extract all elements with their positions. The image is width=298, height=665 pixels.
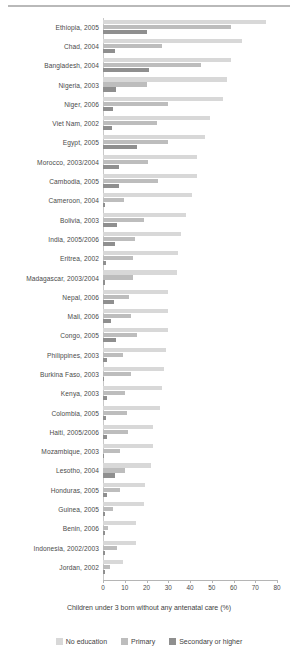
bar-primary <box>103 160 148 164</box>
bar-row: Haiti, 2005/2006 <box>103 423 277 442</box>
bar-row: Egypt, 2005 <box>103 134 277 153</box>
category-label: Lesotho, 2004 <box>56 468 99 475</box>
bar-secondary-or-higher <box>103 493 107 497</box>
category-label: Indonesia, 2002/2003 <box>34 545 99 552</box>
bar-no-education <box>103 406 160 410</box>
legend-label: No education <box>66 638 107 645</box>
category-label: Nepal, 2006 <box>62 295 99 302</box>
bar-secondary-or-higher <box>103 49 115 53</box>
bar-no-education <box>103 309 168 313</box>
category-label: Mozambique, 2003 <box>41 449 99 456</box>
bar-primary <box>103 121 157 125</box>
chart-legend: No education Primary Secondary or higher <box>0 638 298 645</box>
bar-primary <box>103 449 120 453</box>
bar-row: Guinea, 2005 <box>103 500 277 519</box>
x-tick-label: 20 <box>143 585 150 591</box>
bar-row: Benin, 2006 <box>103 520 277 539</box>
x-tick-label: 70 <box>252 585 259 591</box>
bar-no-education <box>103 560 123 564</box>
category-label: Viet Nam, 2002 <box>52 121 99 128</box>
bar-secondary-or-higher <box>103 377 104 381</box>
bar-primary <box>103 44 162 48</box>
bar-primary <box>103 411 127 415</box>
bar-secondary-or-higher <box>103 300 114 304</box>
bar-primary <box>103 353 123 357</box>
bar-no-education <box>103 541 136 545</box>
category-label: India, 2005/2006 <box>48 237 99 244</box>
bar-no-education <box>103 193 192 197</box>
category-label: Niger, 2006 <box>64 102 99 109</box>
bar-primary <box>103 218 144 222</box>
bar-row: Nepal, 2006 <box>103 288 277 307</box>
bar-no-education <box>103 483 145 487</box>
bar-row: Honduras, 2005 <box>103 481 277 500</box>
bar-no-education <box>103 135 205 139</box>
bar-secondary-or-higher <box>103 87 116 91</box>
bar-no-education <box>103 386 162 390</box>
x-tick <box>277 580 278 583</box>
bar-primary <box>103 63 201 67</box>
bar-no-education <box>103 328 168 332</box>
x-tick-label: 60 <box>230 585 237 591</box>
bar-primary <box>103 468 125 472</box>
bar-no-education <box>103 348 166 352</box>
bar-no-education <box>103 155 197 159</box>
x-tick-label: 80 <box>273 585 280 591</box>
bar-no-education <box>103 425 153 429</box>
bar-row: Mali, 2006 <box>103 307 277 326</box>
category-label: Honduras, 2005 <box>51 487 99 494</box>
bar-secondary-or-higher <box>103 242 115 246</box>
bar-secondary-or-higher <box>103 454 104 458</box>
bar-row: Madagascar, 2003/2004 <box>103 269 277 288</box>
category-label: Philippines, 2003 <box>47 352 99 359</box>
bar-row: Ethiopia, 2005 <box>103 18 277 37</box>
bar-no-education <box>103 251 178 255</box>
x-tick <box>125 580 126 583</box>
bar-primary <box>103 430 128 434</box>
bar-row: India, 2005/2006 <box>103 230 277 249</box>
bar-secondary-or-higher <box>103 68 149 72</box>
bar-no-education <box>103 270 177 274</box>
category-label: Egypt, 2005 <box>63 140 99 147</box>
bar-no-education <box>103 116 210 120</box>
x-tick <box>234 580 235 583</box>
bar-secondary-or-higher <box>103 280 105 284</box>
category-label: Madagascar, 2003/2004 <box>26 275 99 282</box>
bar-secondary-or-higher <box>103 203 105 207</box>
bar-secondary-or-higher <box>103 358 107 362</box>
bar-secondary-or-higher <box>103 165 119 169</box>
bar-row: Bangladesh, 2004 <box>103 57 277 76</box>
legend-swatch-icon <box>121 638 128 645</box>
legend-item-no-education: No education <box>56 638 107 645</box>
category-label: Nigeria, 2003 <box>58 82 99 89</box>
bar-row: Jordan, 2002 <box>103 558 277 577</box>
bar-primary <box>103 198 124 202</box>
bar-no-education <box>103 97 223 101</box>
bar-primary <box>103 565 110 569</box>
category-label: Jordan, 2002 <box>59 565 99 572</box>
bar-row: Eritrea, 2002 <box>103 250 277 269</box>
bar-row: Chad, 2004 <box>103 37 277 56</box>
plot-area: Ethiopia, 2005Chad, 2004Bangladesh, 2004… <box>103 18 277 578</box>
bar-secondary-or-higher <box>103 473 115 477</box>
bar-no-education <box>103 502 144 506</box>
bar-no-education <box>103 39 242 43</box>
bar-no-education <box>103 521 136 525</box>
category-label: Colombia, 2005 <box>51 410 99 417</box>
category-label: Ethiopia, 2005 <box>55 24 99 31</box>
x-tick-label: 40 <box>186 585 193 591</box>
bar-row: Niger, 2006 <box>103 95 277 114</box>
bar-secondary-or-higher <box>103 416 106 420</box>
category-label: Bangladesh, 2004 <box>44 63 99 70</box>
legend-item-primary: Primary <box>121 638 155 645</box>
category-label: Bolivia, 2003 <box>60 217 99 224</box>
bar-secondary-or-higher <box>103 184 119 188</box>
category-label: Cameroon, 2004 <box>48 198 99 205</box>
bar-no-education <box>103 174 197 178</box>
bar-secondary-or-higher <box>103 551 105 555</box>
bar-secondary-or-higher <box>103 261 106 265</box>
category-label: Benin, 2006 <box>63 526 99 533</box>
top-divider-rule <box>8 5 290 7</box>
bar-row: Burkina Faso, 2003 <box>103 365 277 384</box>
bar-primary <box>103 140 168 144</box>
